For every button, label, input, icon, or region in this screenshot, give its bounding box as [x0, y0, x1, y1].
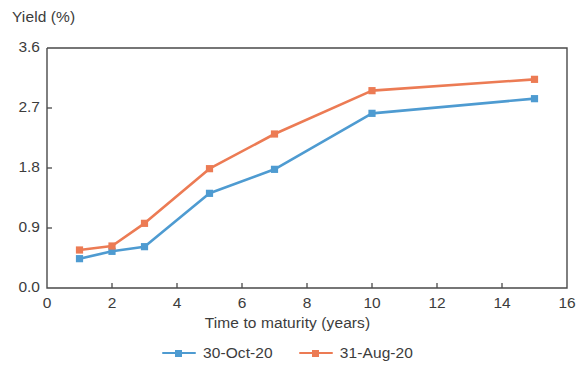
- axis-frame: [47, 48, 567, 288]
- x-axis-title: Time to maturity (years): [0, 314, 575, 332]
- legend-label: 30-Oct-20: [203, 344, 273, 362]
- legend-label: 31-Aug-20: [340, 344, 413, 362]
- data-point-marker: [76, 255, 83, 262]
- data-point-marker: [368, 110, 375, 117]
- data-point-marker: [76, 246, 83, 253]
- data-point-marker: [368, 87, 375, 94]
- data-point-marker: [108, 242, 115, 249]
- data-point-marker: [531, 95, 538, 102]
- legend-item[interactable]: 30-Oct-20: [162, 344, 273, 362]
- data-point-marker: [141, 243, 148, 250]
- chart-legend: 30-Oct-2031-Aug-20: [0, 344, 575, 362]
- data-point-marker: [531, 76, 538, 83]
- legend-item[interactable]: 31-Aug-20: [299, 344, 413, 362]
- data-point-marker: [271, 130, 278, 137]
- data-series-layer: [76, 76, 538, 263]
- data-point-marker: [206, 165, 213, 172]
- legend-swatch-icon: [162, 348, 196, 358]
- data-point-marker: [271, 166, 278, 173]
- series-line: [80, 99, 535, 259]
- legend-swatch-icon: [299, 348, 333, 358]
- data-point-marker: [206, 190, 213, 197]
- data-series: [76, 76, 538, 254]
- data-point-marker: [141, 220, 148, 227]
